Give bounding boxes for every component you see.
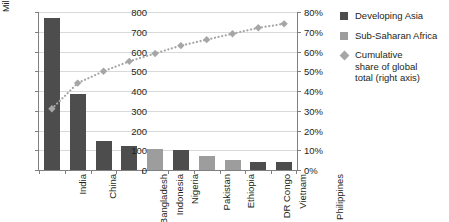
x-axis-label-india: India <box>77 174 88 195</box>
x-axis-tick <box>65 170 66 174</box>
x-axis-label-pakistan: Pakistan <box>221 174 232 210</box>
y-axis-right-tick <box>298 52 301 53</box>
y-axis-left-tick <box>35 170 38 171</box>
legend-square-icon <box>340 12 348 20</box>
x-axis-label-indonesia: Indonesia <box>175 174 186 215</box>
x-axis-tick <box>220 170 221 174</box>
y-axis-left-tick <box>35 91 38 92</box>
legend-label: Developing Asia <box>355 10 423 22</box>
x-axis-label-china: China <box>107 174 118 199</box>
y-axis-left-tick <box>35 111 38 112</box>
y-axis-right-tick <box>298 32 301 33</box>
x-axis-tick <box>271 170 272 174</box>
y-axis-right-tick <box>298 71 301 72</box>
y-axis-left-tick <box>35 12 38 13</box>
y-axis-left-tick-label: 300 <box>131 105 147 116</box>
y-axis-right-tick <box>298 131 301 132</box>
cumulative-marker-indonesia <box>126 58 133 65</box>
cumulative-marker-vietnam <box>255 24 262 31</box>
x-axis-tick <box>91 170 92 174</box>
cumulative-marker-bangladesh <box>100 68 107 75</box>
y-axis-left-tick-label: 0 <box>142 165 147 176</box>
chart-legend: Developing AsiaSub-Saharan AfricaCumulat… <box>340 10 448 92</box>
y-axis-right-tick <box>298 91 301 92</box>
x-axis-label-vietnam: Vietnam <box>297 174 308 209</box>
x-axis-label-philippines: Philippines <box>334 174 345 220</box>
y-axis-right-tick-label: 70% <box>304 26 323 37</box>
y-axis-left-tick-label: 500 <box>131 66 147 77</box>
y-axis-right-tick-label: 10% <box>304 145 323 156</box>
y-axis-left-tick <box>35 71 38 72</box>
y-axis-left-tick-label: 800 <box>131 7 147 18</box>
legend-square-icon <box>340 32 348 40</box>
y-axis-title-left: Million <box>1 0 11 12</box>
legend-item-3: Cumulative share of global total (right … <box>340 49 448 84</box>
y-axis-right-tick-label: 20% <box>304 125 323 136</box>
y-axis-left-tick <box>35 52 38 53</box>
x-axis-label-dr-congo: DR Congo <box>281 174 292 218</box>
legend-item-2: Sub-Saharan Africa <box>340 30 448 42</box>
y-axis-left-line <box>38 12 39 170</box>
cumulative-marker-dr-congo <box>229 30 236 37</box>
y-axis-left-tick-label: 200 <box>131 125 147 136</box>
cumulative-dotted-line <box>52 24 284 109</box>
y-axis-left-tick-label: 700 <box>131 26 147 37</box>
cumulative-marker-pakistan <box>177 42 184 49</box>
legend-label: Sub-Saharan Africa <box>355 30 437 42</box>
y-axis-right-tick-label: 60% <box>304 46 323 57</box>
y-axis-right-tick-label: 40% <box>304 86 323 97</box>
cumulative-marker-philippines <box>280 20 287 27</box>
y-axis-left-tick <box>35 150 38 151</box>
legend-diamond-icon <box>340 51 350 61</box>
cumulative-marker-ethiopia <box>203 36 210 43</box>
legend-label: Cumulative share of global total (right … <box>355 49 420 84</box>
x-axis-label-nigeria: Nigeria <box>189 174 200 204</box>
y-axis-left-tick <box>35 131 38 132</box>
cumulative-line-series <box>39 12 297 170</box>
y-axis-left-tick-label: 400 <box>131 86 147 97</box>
y-axis-right-tick <box>298 150 301 151</box>
chart-container: Million 0100200300400500600700800 0%10%2… <box>0 0 449 222</box>
plot-area <box>39 12 297 170</box>
legend-item-1: Developing Asia <box>340 10 448 22</box>
y-axis-right-tick <box>298 170 301 171</box>
y-axis-right-tick-label: 30% <box>304 105 323 116</box>
y-axis-left-tick-label: 600 <box>131 46 147 57</box>
x-axis-label-bangladesh: Bangladesh <box>158 174 169 222</box>
x-axis-label-ethiopia: Ethiopia <box>245 174 256 208</box>
y-axis-left-tick-label: 100 <box>131 145 147 156</box>
x-axis-tick <box>39 170 40 174</box>
cumulative-marker-nigeria <box>151 50 158 57</box>
y-axis-right-tick-label: 80% <box>304 7 323 18</box>
y-axis-right-tick-label: 50% <box>304 66 323 77</box>
y-axis-right-tick <box>298 12 301 13</box>
y-axis-right-tick <box>298 111 301 112</box>
y-axis-left-tick <box>35 32 38 33</box>
